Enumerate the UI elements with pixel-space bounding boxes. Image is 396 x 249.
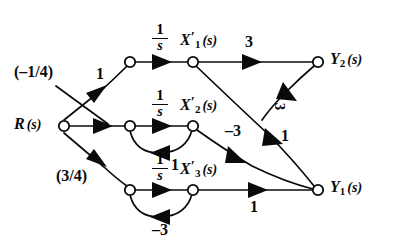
integrator-label-row1: 1 s xyxy=(152,22,168,54)
gain-label-x3-loop: –3 xyxy=(152,222,168,238)
gain-label-x3-y1: 1 xyxy=(250,199,258,215)
arrowhead-x2-y1 xyxy=(225,146,246,163)
arrowhead-r-n3 xyxy=(86,149,107,167)
integrator-label-row2: 1 s xyxy=(152,88,168,120)
node-label-x3: X′3(s) xyxy=(180,159,217,179)
gain-label-x1-y2: 3 xyxy=(245,34,253,50)
node-row1-input xyxy=(125,57,135,67)
node-x3 xyxy=(188,185,198,195)
node-row2-input xyxy=(125,121,135,131)
integrator-label-row3: 1 s xyxy=(152,152,168,184)
node-x2 xyxy=(188,121,198,131)
node-row3-input xyxy=(125,185,135,195)
arrowhead-n1-x1 xyxy=(152,54,172,70)
signal-flow-graph-figure: R(s) X′1(s) X′2(s) X′3(s) Y2(s) Y1(s) 1 … xyxy=(0,0,396,249)
node-label-x1: X′1(s) xyxy=(180,30,217,50)
arrowhead-x1-y2 xyxy=(242,54,262,70)
arrowhead-n2-x2 xyxy=(152,118,172,134)
arrowhead-n3-x3 xyxy=(152,182,172,198)
node-label-y2: Y2(s) xyxy=(330,51,362,69)
node-label-x2: X′2(s) xyxy=(180,95,217,115)
gain-label-x2-y1: –3 xyxy=(225,123,241,139)
node-x1 xyxy=(188,57,198,67)
node-r xyxy=(59,121,69,131)
node-y2 xyxy=(313,57,323,67)
gain-label-r-lower: (3/4) xyxy=(56,168,87,184)
arrowhead-x3-y1 xyxy=(248,182,268,198)
node-label-y1: Y1(s) xyxy=(330,179,362,197)
gain-label-r-middle: (–1/4) xyxy=(14,64,53,80)
node-label-r: R(s) xyxy=(14,116,41,132)
gain-label-r-upper: 1 xyxy=(96,66,104,82)
gain-label-x1-y1: 1 xyxy=(281,128,289,144)
gain-label-x2-loop: 1 xyxy=(171,157,179,173)
gain-label-y2-y1: 3 xyxy=(272,103,287,111)
node-y1 xyxy=(313,185,323,195)
arrowhead-x1-y1 xyxy=(262,128,283,146)
